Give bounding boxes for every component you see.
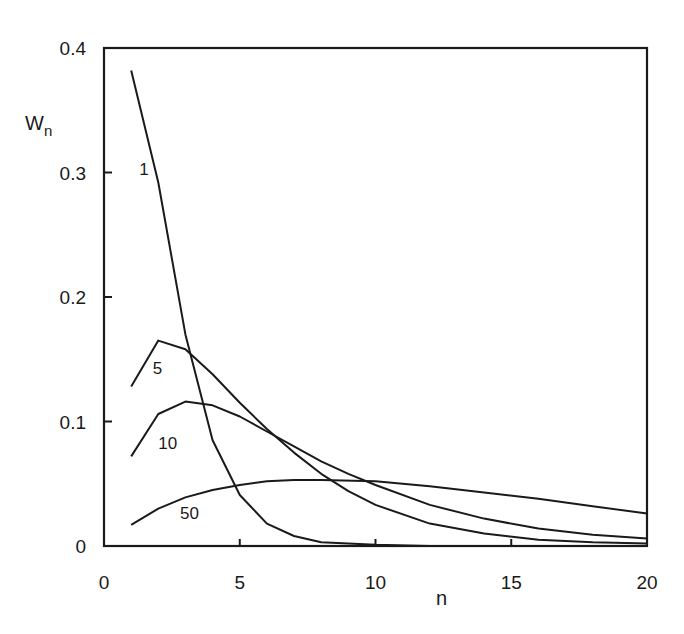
plot-frame — [104, 48, 647, 546]
line-chart: 0510152000.10.20.30.4 151050 n Wn — [0, 0, 684, 634]
x-tick-label: 0 — [99, 572, 110, 593]
curve-label-10: 10 — [158, 434, 177, 453]
y-tick-label: 0.4 — [60, 38, 87, 59]
y-axis-label-subscript: n — [44, 122, 52, 139]
y-tick-label: 0.3 — [60, 163, 86, 184]
x-axis-label: n — [436, 587, 447, 609]
x-tick-label: 5 — [234, 572, 245, 593]
tick-labels: 0510152000.10.20.30.4 — [60, 38, 658, 593]
axis-ticks — [104, 173, 511, 547]
curve-labels: 151050 — [139, 160, 199, 523]
curve-5 — [131, 341, 647, 544]
y-tick-label: 0.2 — [60, 287, 86, 308]
curve-label-50: 50 — [180, 504, 199, 523]
x-tick-label: 20 — [636, 572, 657, 593]
x-tick-label: 15 — [501, 572, 522, 593]
curve-1 — [131, 70, 647, 546]
curve-label-5: 5 — [153, 359, 162, 378]
curve-50 — [131, 480, 647, 525]
curve-label-1: 1 — [139, 160, 148, 179]
y-tick-label: 0.1 — [60, 412, 86, 433]
y-tick-label: 0 — [75, 536, 86, 557]
y-axis-label: Wn — [25, 112, 52, 139]
x-tick-label: 10 — [365, 572, 386, 593]
data-curves — [131, 70, 647, 546]
